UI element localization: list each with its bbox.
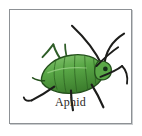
species-label: Aphid — [10, 96, 131, 108]
species-card: Aphid — [9, 9, 132, 124]
aphid-head — [95, 61, 112, 80]
eye-icon — [103, 67, 108, 72]
